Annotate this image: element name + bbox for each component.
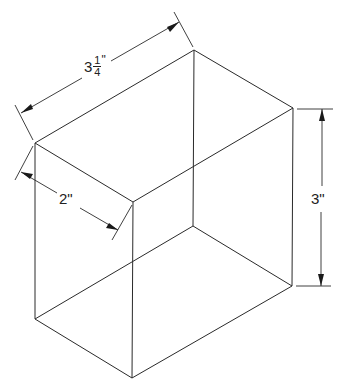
- edge-top-front-left: [35, 143, 133, 202]
- edge-bottom-left-back: [35, 226, 193, 319]
- edge-vertical-front: [132, 202, 133, 378]
- height-arrow-top-icon: [319, 109, 325, 121]
- depth-extension-right: [112, 205, 132, 240]
- edge-top-left-back: [35, 50, 194, 143]
- depth-dimension-label: 2": [59, 190, 73, 207]
- width-arrow-left-icon: [21, 104, 33, 113]
- edge-vertical-back: [193, 50, 194, 226]
- height-arrow-bottom-icon: [318, 274, 324, 286]
- edge-bottom-back-right: [193, 226, 292, 286]
- width-arrow-right-icon: [167, 22, 179, 32]
- width-whole: 3: [84, 58, 92, 75]
- width-fraction: 1 4: [93, 55, 101, 78]
- edge-top-right-front: [133, 108, 293, 202]
- width-extension-right: [174, 12, 193, 47]
- width-denominator: 4: [94, 67, 100, 78]
- box-edges: [35, 50, 293, 378]
- width-dimension-label: 3 1 4 ": [84, 55, 106, 78]
- width-extension-left: [15, 105, 33, 140]
- edge-bottom-front-left: [35, 319, 132, 378]
- edge-vertical-right: [292, 108, 293, 286]
- depth-dimension: [15, 146, 132, 240]
- edge-bottom-right-front: [132, 286, 292, 378]
- edge-top-back-right: [194, 50, 293, 108]
- height-dimension-label: 3": [311, 190, 325, 207]
- isometric-box-diagram: [0, 0, 348, 389]
- width-unit: ": [101, 53, 105, 67]
